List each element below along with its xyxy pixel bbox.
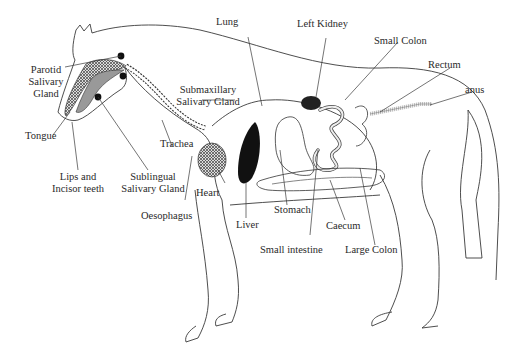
label-large-colon: Large Colon — [345, 244, 398, 256]
label-lung: Lung — [216, 16, 238, 28]
label-trachea: Trachea — [160, 138, 193, 150]
submaxillary-dot — [120, 73, 127, 80]
label-anus: anus — [465, 84, 484, 96]
label-heart: Heart — [196, 187, 219, 199]
label-small-colon: Small Colon — [374, 35, 427, 47]
label-rectum: Rectum — [428, 59, 461, 71]
label-left-kidney: Left Kidney — [297, 18, 348, 30]
stomach-shape — [275, 117, 314, 176]
heart-shape — [198, 143, 226, 177]
label-caecum: Caecum — [326, 220, 360, 232]
label-sublingual-salivary-gland: Sublingual Salivary Gland — [120, 171, 186, 195]
label-small-intestine: Small intestine — [260, 244, 323, 256]
label-oesophagus: Oesophagus — [141, 210, 192, 222]
label-submaxillary-salivary-gland: Submaxillary Salivary Gland — [172, 84, 244, 108]
rectum-shape — [370, 104, 432, 114]
label-parotid-salivary-gland: Parotid Salivary Gland — [24, 64, 68, 100]
label-lips-incisor-teeth: Lips and Incisor teeth — [48, 171, 108, 195]
large-colon-shape — [257, 168, 385, 191]
horse-digestive-diagram: Lung Left Kidney Small Colon Rectum anus… — [0, 0, 512, 359]
left-kidney-shape — [301, 96, 321, 110]
liver-shape — [238, 122, 260, 183]
label-tongue: Tongue — [25, 130, 56, 142]
label-liver: Liver — [236, 219, 259, 231]
label-stomach: Stomach — [274, 204, 311, 216]
small-colon-shape — [355, 106, 368, 146]
